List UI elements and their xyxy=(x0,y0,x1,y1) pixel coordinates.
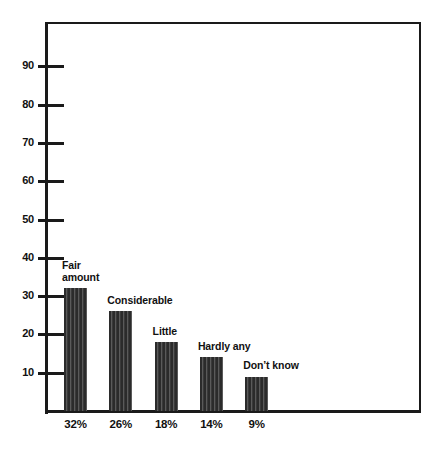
y-axis-tick-label: 40 xyxy=(4,252,34,263)
bar-percent-label: 26% xyxy=(98,418,144,430)
bar-label: Don’t know xyxy=(243,360,299,372)
y-axis-tick-label: 10 xyxy=(4,367,34,378)
bar-chart: 102030405060708090 Fair amountConsiderab… xyxy=(0,0,438,453)
bars-layer xyxy=(45,22,421,412)
bar[interactable] xyxy=(64,288,87,411)
bar[interactable] xyxy=(109,311,132,411)
bar[interactable] xyxy=(200,357,223,411)
bar[interactable] xyxy=(245,377,268,411)
y-axis-tick-label: 30 xyxy=(4,290,34,301)
bar-label: Little xyxy=(153,326,177,338)
bar-percent-label: 32% xyxy=(53,418,99,430)
bar-label: Hardly any xyxy=(198,341,251,353)
y-axis-tick-label: 80 xyxy=(4,99,34,110)
bar-percent-label: 9% xyxy=(234,418,280,430)
bar-percent-label: 18% xyxy=(143,418,189,430)
y-axis-tick-label: 50 xyxy=(4,214,34,225)
bar-label: Considerable xyxy=(107,295,172,307)
bar-label: Fair amount xyxy=(62,260,99,283)
bar-percent-label: 14% xyxy=(188,418,234,430)
y-axis-tick-label: 20 xyxy=(4,328,34,339)
bar[interactable] xyxy=(155,342,178,411)
y-axis-tick-label: 90 xyxy=(4,60,34,71)
y-axis-tick-label: 60 xyxy=(4,175,34,186)
y-axis-tick-label: 70 xyxy=(4,137,34,148)
